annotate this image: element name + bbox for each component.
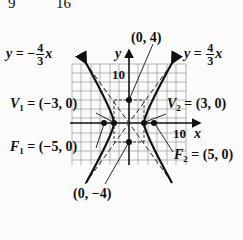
point-f2 <box>151 120 157 126</box>
x-axis-label: x <box>194 127 201 141</box>
label-f1: F1 = (−5, 0) <box>10 140 77 156</box>
label-f2: F2 = (5, 0) <box>174 148 233 164</box>
point-f1 <box>101 120 107 126</box>
y-tick-label: 10 <box>112 68 125 81</box>
asymptote-label-neg: y = −43x <box>6 42 52 67</box>
asymptote-label-pos: y = 43x <box>184 42 222 67</box>
label-v1: V1 = (−3, 0) <box>10 97 77 113</box>
point-co-vertex-top <box>126 97 132 103</box>
label-v2: V2 = (3, 0) <box>167 97 226 113</box>
point-v2 <box>141 120 147 126</box>
label-co-vertex-top: (0, 4) <box>131 31 161 45</box>
point-co-vertex-bottom <box>126 139 132 145</box>
point-v1 <box>111 120 117 126</box>
label-co-vertex-bottom: (0, −4) <box>73 187 111 201</box>
y-axis-label: y <box>115 47 121 61</box>
x-tick-label: 10 <box>173 127 186 140</box>
